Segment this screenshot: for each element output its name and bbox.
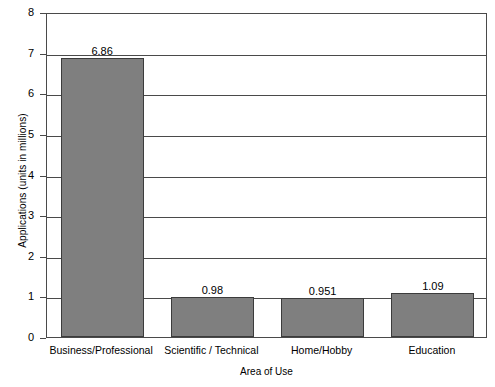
y-tick-label: 1 bbox=[0, 291, 34, 302]
bar-value-label: 1.09 bbox=[391, 281, 474, 292]
y-tick-label: 7 bbox=[0, 48, 34, 59]
y-tick-label: 3 bbox=[0, 210, 34, 221]
bar-value-label: 6.86 bbox=[61, 46, 144, 57]
x-category-label: Scientific / Technical bbox=[156, 344, 266, 356]
y-tick-label: 2 bbox=[0, 251, 34, 262]
y-tick-label: 8 bbox=[0, 7, 34, 18]
bar bbox=[391, 293, 474, 337]
x-category-label: Business/Professional bbox=[46, 344, 156, 356]
bar-value-label: 0.951 bbox=[281, 286, 364, 297]
x-axis-title: Area of Use bbox=[46, 366, 487, 377]
bar bbox=[281, 298, 364, 337]
y-tick-label: 0 bbox=[0, 332, 34, 343]
bars-layer: 6.860.980.9511.09 bbox=[47, 14, 486, 337]
y-tick-label: 5 bbox=[0, 129, 34, 140]
y-axis-ticks: 012345678 bbox=[0, 0, 46, 387]
bar-chart: Applications (units in millions) 0123456… bbox=[0, 0, 495, 387]
y-tick-mark bbox=[40, 338, 46, 339]
y-tick-label: 6 bbox=[0, 88, 34, 99]
bar bbox=[171, 297, 254, 337]
bar-value-label: 0.98 bbox=[171, 285, 254, 296]
x-axis-category-labels: Business/ProfessionalScientific / Techni… bbox=[46, 344, 487, 360]
plot-area: 6.860.980.9511.09 bbox=[46, 13, 487, 338]
bar bbox=[61, 58, 144, 337]
y-tick-label: 4 bbox=[0, 170, 34, 181]
x-category-label: Education bbox=[377, 344, 487, 356]
x-category-label: Home/Hobby bbox=[267, 344, 377, 356]
